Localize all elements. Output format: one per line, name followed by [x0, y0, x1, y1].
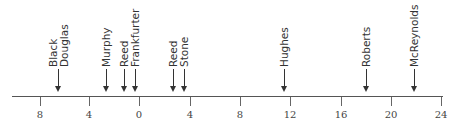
marker-label: Murphy — [100, 27, 112, 67]
marker-label: Frankfurter — [129, 9, 141, 67]
tick-label: 12 — [278, 109, 302, 120]
tick-mark — [441, 97, 442, 106]
axis-line — [12, 96, 443, 97]
tick-label: 0 — [127, 109, 151, 120]
marker-label: Hughes — [278, 27, 290, 67]
justice-position-number-line: 8 4 0 4 8 12 16 20 24 Black Douglas Murp… — [0, 0, 457, 128]
tick-mark — [290, 97, 291, 106]
tick-label: 8 — [228, 109, 252, 120]
arrow-down-icon — [363, 86, 369, 92]
arrow-down-icon — [132, 86, 138, 92]
tick-label: 16 — [329, 109, 353, 120]
tick-label: 20 — [379, 109, 403, 120]
tick-mark — [240, 97, 241, 106]
tick-label: 4 — [77, 109, 101, 120]
tick-mark — [89, 97, 90, 106]
tick-mark — [391, 97, 392, 106]
marker-label: McReynolds — [408, 5, 420, 67]
tick-mark — [341, 97, 342, 106]
tick-label: 24 — [429, 109, 453, 120]
arrow-down-icon — [170, 86, 176, 92]
tick-label: 8 — [28, 109, 52, 120]
marker-label: Roberts — [360, 27, 372, 67]
tick-mark — [40, 97, 41, 106]
arrow-down-icon — [55, 86, 61, 92]
tick-mark — [139, 97, 140, 106]
tick-mark — [190, 97, 191, 106]
marker-label: Douglas — [58, 24, 70, 67]
arrow-down-icon — [103, 86, 109, 92]
arrow-down-icon — [181, 86, 187, 92]
tick-label: 4 — [178, 109, 202, 120]
marker-label: Stone — [178, 37, 190, 67]
arrow-down-icon — [281, 86, 287, 92]
arrow-down-icon — [411, 86, 417, 92]
arrow-down-icon — [121, 86, 127, 92]
